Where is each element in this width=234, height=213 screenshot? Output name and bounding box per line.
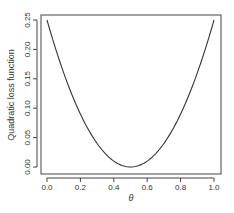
x-axis-label: θ bbox=[129, 193, 134, 203]
y-tick-label: 0.00 bbox=[23, 159, 32, 175]
y-axis: 0.000.050.100.150.200.25 bbox=[23, 12, 37, 175]
plot-box bbox=[41, 15, 221, 174]
x-tick-label: 0.4 bbox=[108, 183, 120, 192]
quadratic-loss-chart: 0.000.050.100.150.200.25 0.00.20.40.60.8… bbox=[0, 0, 234, 213]
x-tick-label: 0.0 bbox=[41, 183, 53, 192]
y-tick-label: 0.05 bbox=[23, 129, 32, 145]
y-axis-label: Quadratic loss function bbox=[6, 49, 16, 141]
x-tick-label: 0.6 bbox=[142, 183, 154, 192]
loss-curve bbox=[47, 20, 214, 167]
y-tick-label: 0.15 bbox=[23, 70, 32, 86]
y-tick-label: 0.25 bbox=[23, 12, 32, 28]
x-tick-label: 0.8 bbox=[175, 183, 187, 192]
chart-svg: 0.000.050.100.150.200.25 0.00.20.40.60.8… bbox=[0, 0, 234, 213]
x-axis: 0.00.20.40.60.81.0 bbox=[41, 178, 220, 192]
y-tick-label: 0.10 bbox=[23, 100, 32, 116]
y-tick-label: 0.20 bbox=[23, 41, 32, 57]
x-tick-label: 0.2 bbox=[75, 183, 87, 192]
x-tick-label: 1.0 bbox=[208, 183, 220, 192]
